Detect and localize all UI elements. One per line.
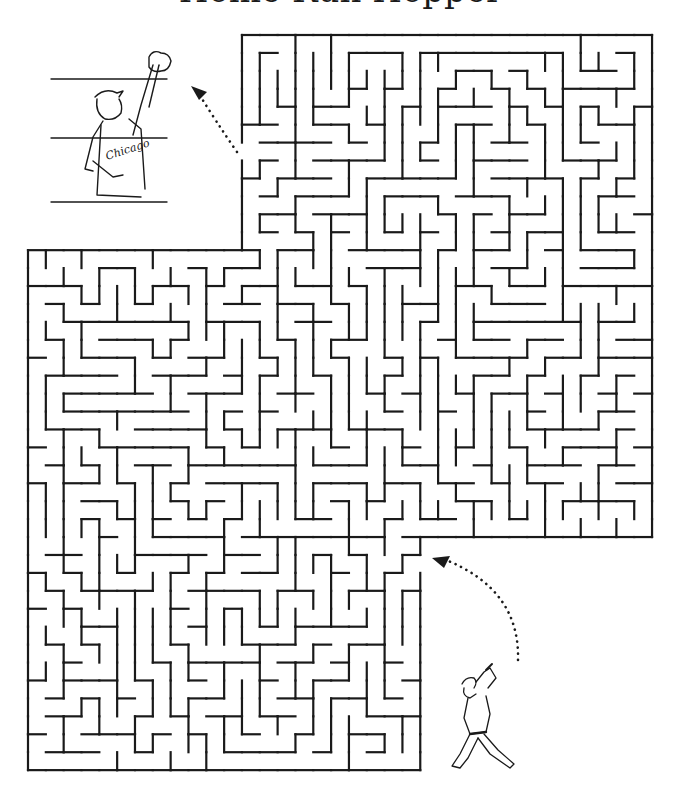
exit-arrow-icon	[185, 80, 245, 160]
batter-illustration	[450, 660, 540, 775]
entry-arrow-icon	[428, 550, 528, 665]
fan-jersey-text: Chicago	[104, 136, 152, 163]
